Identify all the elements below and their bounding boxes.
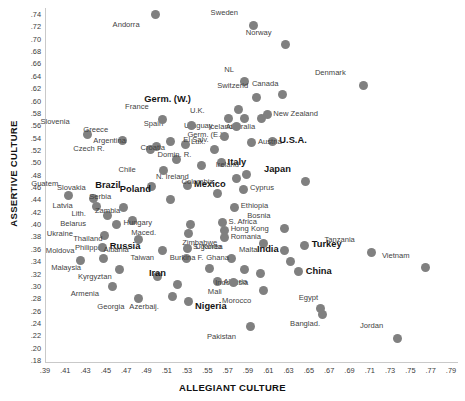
- data-point-label: Domin. R.: [158, 150, 192, 159]
- data-point[interactable]: [281, 40, 290, 49]
- data-point[interactable]: [115, 265, 124, 274]
- data-point[interactable]: [184, 229, 193, 238]
- data-point[interactable]: [151, 10, 160, 19]
- data-point-label: Egypt: [299, 293, 318, 302]
- data-point[interactable]: [158, 246, 167, 255]
- data-point-label: Philipp.: [75, 243, 100, 252]
- data-point[interactable]: [210, 145, 219, 154]
- data-point-label: Hungary: [123, 218, 152, 227]
- y-tick-label: .52: [19, 146, 41, 155]
- data-point-label: Uganda: [195, 242, 222, 251]
- data-point-label: Romania: [231, 232, 261, 241]
- data-point[interactable]: [99, 254, 108, 263]
- data-point[interactable]: [286, 257, 295, 266]
- data-point[interactable]: [230, 203, 239, 212]
- data-point-label: Banglad.: [290, 319, 320, 328]
- data-point[interactable]: [259, 286, 268, 295]
- data-point[interactable]: [173, 280, 182, 289]
- data-point[interactable]: [294, 267, 303, 276]
- data-point-label: Morocco: [222, 296, 251, 305]
- y-tick-label: .62: [19, 84, 41, 93]
- y-axis-title: ASSERTIVE CULTURE: [8, 99, 19, 249]
- y-tick-label: .66: [19, 59, 41, 68]
- data-point[interactable]: [197, 161, 206, 170]
- data-point-label: Serbia: [89, 192, 111, 201]
- data-point-label: Pakistan: [207, 332, 236, 341]
- data-point-label: Vietnam: [382, 251, 410, 260]
- data-point[interactable]: [166, 137, 175, 146]
- data-point-label: Japan: [264, 164, 291, 174]
- data-point[interactable]: [257, 114, 266, 123]
- data-point[interactable]: [220, 132, 229, 141]
- data-point[interactable]: [187, 121, 196, 130]
- data-point-label: Colombia: [181, 177, 213, 186]
- data-point[interactable]: [359, 81, 368, 90]
- data-point[interactable]: [280, 224, 289, 233]
- data-point[interactable]: [220, 233, 229, 242]
- data-point[interactable]: [256, 269, 265, 278]
- data-point[interactable]: [205, 264, 214, 273]
- data-point[interactable]: [300, 241, 309, 250]
- data-point[interactable]: [393, 334, 402, 343]
- y-tick-label: .20: [19, 344, 41, 353]
- y-tick-label: .54: [19, 134, 41, 143]
- data-point-label: Canada: [252, 79, 279, 88]
- data-point-label: Ghana: [206, 253, 229, 262]
- data-point[interactable]: [213, 189, 222, 198]
- y-tick-label: .40: [19, 220, 41, 229]
- y-tick-label: .22: [19, 331, 41, 340]
- data-point-label: Brazil: [95, 180, 120, 190]
- data-point-label: Georgia: [97, 302, 124, 311]
- y-tick-label: .42: [19, 208, 41, 217]
- y-tick-label: .28: [19, 294, 41, 303]
- data-point[interactable]: [301, 177, 310, 186]
- data-point-label: Guatem.: [31, 179, 60, 188]
- data-point-label: China: [306, 266, 332, 276]
- data-point[interactable]: [278, 90, 287, 99]
- data-point-label: Slovenia: [40, 117, 69, 126]
- data-point[interactable]: [158, 115, 167, 124]
- data-point[interactable]: [186, 220, 195, 229]
- data-point[interactable]: [252, 93, 261, 102]
- data-point-label: Kyrgyztan: [78, 272, 112, 281]
- y-tick-label: .70: [19, 35, 41, 44]
- data-point[interactable]: [242, 170, 251, 179]
- data-point[interactable]: [232, 174, 241, 183]
- data-point[interactable]: [318, 310, 327, 319]
- data-point[interactable]: [246, 322, 255, 331]
- data-point-label: Azerbaij.: [129, 302, 159, 311]
- data-point-label: India: [257, 244, 279, 254]
- data-point-label: Sweden: [211, 8, 238, 17]
- data-point-label: Czech R.: [73, 144, 104, 153]
- y-tick-label: .60: [19, 97, 41, 106]
- data-point[interactable]: [183, 244, 192, 253]
- data-point[interactable]: [239, 185, 248, 194]
- data-point[interactable]: [166, 195, 175, 204]
- data-point[interactable]: [184, 297, 193, 306]
- data-point-label: Jordan: [360, 321, 383, 330]
- data-point[interactable]: [168, 292, 177, 301]
- data-point[interactable]: [240, 265, 249, 274]
- data-point[interactable]: [234, 105, 243, 114]
- y-tick-label: .58: [19, 109, 41, 118]
- data-point-label: U.S.A.: [279, 135, 306, 145]
- data-point-label: Latvia: [52, 201, 72, 210]
- data-point-label: Norway: [246, 28, 272, 37]
- y-tick-label: .64: [19, 72, 41, 81]
- data-point-label: Bosnia: [247, 211, 270, 220]
- data-point[interactable]: [421, 263, 430, 272]
- data-point[interactable]: [280, 246, 289, 255]
- data-point[interactable]: [247, 138, 256, 147]
- data-point-label: Burkina F.: [170, 253, 204, 262]
- data-point[interactable]: [112, 220, 121, 229]
- data-point[interactable]: [367, 248, 376, 257]
- data-point-label: Moldova: [46, 246, 75, 255]
- data-point-label: Germ. (W.): [144, 94, 191, 104]
- data-point-label: Iran: [149, 268, 166, 278]
- data-point-label: Slovakia: [57, 183, 86, 192]
- y-tick-label: .26: [19, 307, 41, 316]
- y-tick-label: .72: [19, 22, 41, 31]
- data-point[interactable]: [108, 282, 117, 291]
- y-tick-label: .36: [19, 245, 41, 254]
- y-tick-label: .24: [19, 319, 41, 328]
